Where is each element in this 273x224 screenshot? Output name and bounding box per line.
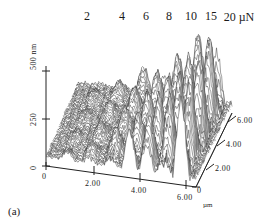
load-label-4: 4 [119, 9, 125, 23]
load-label-15: 15 [205, 9, 217, 23]
x-axis-label-4: 4.00 [131, 186, 147, 195]
x-axis-label-2: 2.00 [85, 179, 101, 188]
y-axis-label-4: 4.00 [226, 140, 242, 149]
z-axis-mid-label: 250 [29, 113, 38, 126]
x-axis-label-6: 6.00 [177, 193, 193, 202]
panel-caption: (a) [8, 205, 21, 218]
x-axis-label-0: 0 [42, 172, 46, 181]
x-axis-unit-label: µm [203, 201, 213, 209]
z-axis-top-label: 500 nm [29, 43, 38, 70]
y-axis-label-6: 6.00 [237, 116, 253, 125]
load-label-6: 6 [143, 9, 149, 23]
load-label-2: 2 [84, 9, 90, 23]
z-axis-zero-label: 0 [29, 166, 38, 170]
figure-canvas: 500 nm 250 0 0 2.00 4.00 6.00 µm 0 2.00 [0, 0, 273, 224]
y-axis-label-0: 0 [197, 186, 201, 195]
afm-surface-figure: 500 nm 250 0 0 2.00 4.00 6.00 µm 0 2.00 [0, 0, 273, 224]
load-label-10: 10 [185, 9, 197, 23]
load-label-8: 8 [166, 9, 172, 23]
load-axis-unit-label: 20 µN [224, 10, 255, 24]
y-axis-label-2: 2.00 [215, 164, 231, 173]
